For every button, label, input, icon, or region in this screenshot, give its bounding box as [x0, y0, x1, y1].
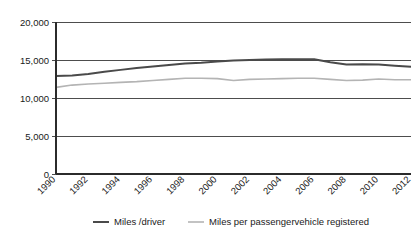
line-chart: 05,00010,00015,00020,000 199019921994199… [0, 0, 418, 239]
y-axis-label: 15,000 [20, 55, 49, 66]
x-axis-label: 1994 [99, 174, 122, 197]
series-group [56, 59, 411, 87]
legend-label-1: Miles per passengervehicle registered [209, 216, 369, 227]
legend-group: Miles /driverMiles per passengervehicle … [93, 216, 369, 227]
series-line-1 [56, 78, 411, 87]
x-axis-label: 2012 [390, 174, 413, 197]
x-axis-label: 2010 [357, 174, 380, 197]
x-axis-label: 1990 [35, 174, 58, 197]
series-line-0 [56, 59, 411, 76]
y-axis-label: 5,000 [25, 131, 49, 142]
x-axis-label: 2006 [293, 174, 316, 197]
y-axis-label: 20,000 [20, 17, 49, 28]
x-axis-label: 2000 [196, 174, 219, 197]
chart-canvas: 05,00010,00015,00020,000 199019921994199… [0, 0, 418, 239]
x-axis-label: 2008 [325, 174, 348, 197]
gridlines-group [56, 22, 411, 136]
y-axis-labels-group: 05,00010,00015,00020,000 [20, 17, 49, 180]
x-axis-labels-group: 1990199219941996199820002002200420062008… [35, 174, 413, 197]
x-axis-label: 2004 [261, 174, 284, 197]
x-axis-label: 1996 [132, 174, 155, 197]
x-axis-label: 2002 [228, 174, 251, 197]
x-axis-label: 1992 [67, 174, 90, 197]
legend-label-0: Miles /driver [114, 216, 165, 227]
y-axis-label: 10,000 [20, 93, 49, 104]
x-axis-label: 1998 [164, 174, 187, 197]
